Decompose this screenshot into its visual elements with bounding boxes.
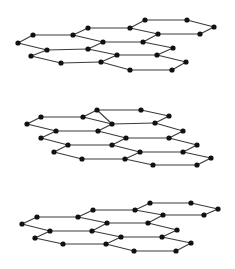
atom-node <box>47 228 52 233</box>
atom-node <box>19 221 24 226</box>
atom-node <box>15 40 20 45</box>
bond-edge <box>191 203 218 209</box>
bond-edge <box>41 138 68 145</box>
bond-edge <box>92 231 121 237</box>
bond-edge <box>183 152 211 158</box>
atom-node <box>184 17 189 22</box>
atom-node <box>188 240 193 245</box>
bond-edge <box>157 48 173 55</box>
atom-node <box>180 128 185 133</box>
atom-node <box>85 25 90 30</box>
atom-node <box>65 142 70 147</box>
atom-node <box>109 121 114 126</box>
atom-node <box>180 149 185 154</box>
atom-node <box>38 114 43 119</box>
bottom-layer <box>19 200 220 253</box>
atom-node <box>132 207 137 212</box>
bond-edge <box>47 49 88 50</box>
atom-node <box>131 248 136 253</box>
bond-edge <box>27 124 56 131</box>
top-layer <box>15 17 216 72</box>
atom-node <box>24 121 29 126</box>
atom-node <box>142 17 147 22</box>
bond-edge <box>157 55 186 62</box>
atom-node <box>85 46 90 51</box>
bond-edge <box>141 110 169 116</box>
atom-node <box>173 248 178 253</box>
bond-edge <box>98 131 126 138</box>
bond-edge <box>169 138 197 145</box>
bond-edge <box>54 152 82 159</box>
bond-edge <box>148 223 177 230</box>
atom-node <box>140 39 145 44</box>
atom-node <box>34 214 39 219</box>
bond-edge <box>22 224 50 231</box>
bond-edge <box>112 123 155 124</box>
atom-node <box>169 67 174 72</box>
bond-edge <box>35 238 63 244</box>
atom-node <box>166 135 171 140</box>
bond-edge <box>101 55 117 62</box>
atom-node <box>155 31 160 36</box>
atom-node <box>201 212 206 217</box>
bond-edge <box>88 49 117 55</box>
atom-node <box>127 67 132 72</box>
atom-node <box>215 206 220 211</box>
atom-node <box>100 39 105 44</box>
atom-node <box>174 227 179 232</box>
atom-node <box>197 31 202 36</box>
atom-node <box>89 228 94 233</box>
atom-node <box>114 52 119 57</box>
atom-node <box>145 220 150 225</box>
bond-edge <box>61 62 101 63</box>
atom-node <box>183 59 188 64</box>
atom-node <box>103 241 108 246</box>
bond-edge <box>187 20 214 27</box>
atom-node <box>79 156 84 161</box>
bond-edge <box>101 62 130 70</box>
atom-node <box>147 200 152 205</box>
atom-node <box>137 149 142 154</box>
atom-node <box>94 107 99 112</box>
atom-node <box>32 235 37 240</box>
bond-edge <box>112 145 140 152</box>
atom-node <box>194 142 199 147</box>
bond-edge <box>73 35 103 42</box>
atom-node <box>44 47 49 52</box>
graphite-layers-diagram <box>0 0 235 269</box>
bond-edge <box>130 28 158 34</box>
atom-node <box>95 128 100 133</box>
atom-node <box>98 59 103 64</box>
atom-node <box>138 107 143 112</box>
atom-node <box>154 52 159 57</box>
atom-node <box>104 220 109 225</box>
atom-node <box>160 212 165 217</box>
atom-node <box>70 32 75 37</box>
atom-node <box>122 156 127 161</box>
atom-node <box>211 24 216 29</box>
middle-layer <box>24 107 213 167</box>
atom-node <box>38 135 43 140</box>
atom-node <box>51 149 56 154</box>
atom-node <box>80 114 85 119</box>
atom-node <box>28 53 33 58</box>
atom-node <box>170 45 175 50</box>
bond-edge <box>143 42 173 48</box>
atom-node <box>123 135 128 140</box>
bond-edge <box>125 159 153 165</box>
atom-node <box>194 162 199 167</box>
atom-node <box>152 120 157 125</box>
atom-node <box>159 234 164 239</box>
bond-edge <box>18 43 47 50</box>
atom-node <box>53 128 58 133</box>
bond-edge <box>162 237 191 243</box>
bond-edge <box>106 244 134 251</box>
bond-edge <box>155 123 183 131</box>
bond-edge <box>135 210 163 215</box>
bond-edge <box>31 56 61 63</box>
atom-node <box>208 155 213 160</box>
atom-node <box>109 142 114 147</box>
atom-node <box>90 207 95 212</box>
bond-edge <box>78 217 107 223</box>
atom-node <box>60 241 65 246</box>
